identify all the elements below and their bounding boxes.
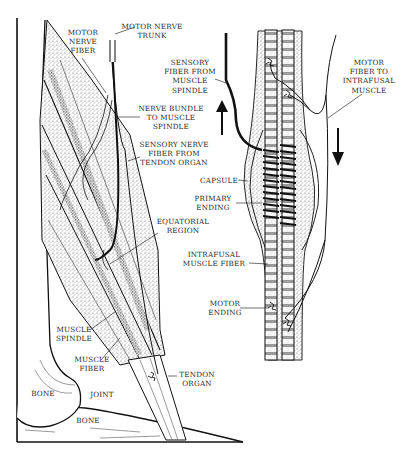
label-muscle-fiber: MUSCLE FIBER xyxy=(70,355,114,373)
label-bone-lower: BONE xyxy=(70,416,106,425)
label-primary-ending: PRIMARY ENDING xyxy=(190,194,236,212)
label-intrafusal-muscle-fiber: INTRAFUSAL MUSCLE FIBER xyxy=(178,250,250,268)
label-sensory-fiber-from-spindle: SENSORY FIBER FROM MUSCLE SPINDLE xyxy=(160,58,220,95)
label-tendon-organ: TENDON ORGAN xyxy=(174,370,220,388)
label-muscle-spindle: MUSCLE SPINDLE xyxy=(52,325,96,343)
label-motor-ending: MOTOR ENDING xyxy=(206,299,244,317)
label-motor-nerve-trunk: MOTOR NERVE TRUNK xyxy=(116,22,188,40)
up-arrow xyxy=(216,100,228,135)
label-motor-fiber-to-intrafusal: MOTOR FIBER TO INTRAFUSAL MUSCLE xyxy=(336,58,402,95)
label-motor-nerve-fiber: MOTOR NERVE FIBER xyxy=(62,28,104,56)
label-sensory-nerve-fiber: SENSORY NERVE FIBER FROM TENDON ORGAN xyxy=(134,140,214,168)
label-joint: JOINT xyxy=(84,390,120,399)
diagram-stage: MOTOR NERVE FIBER MOTOR NERVE TRUNK NERV… xyxy=(0,0,409,458)
label-bone-upper: BONE xyxy=(28,389,58,398)
figure-caption-cropped xyxy=(14,451,84,458)
down-arrow xyxy=(332,128,344,166)
label-capsule: CAPSULE xyxy=(190,176,238,185)
label-equatorial-region: EQUATORIAL REGION xyxy=(150,217,216,235)
label-nerve-bundle: NERVE BUNDLE TO MUSCLE SPINDLE xyxy=(135,104,207,132)
